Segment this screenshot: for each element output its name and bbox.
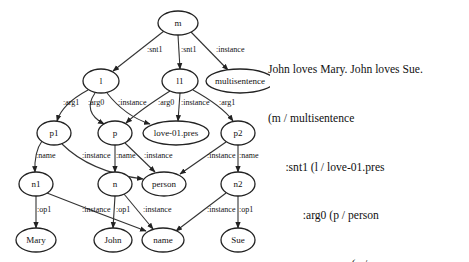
node-n2: n2 [221, 172, 255, 196]
edge-l1-p: :arg0 [126, 91, 174, 123]
edge-p2-person: :instance [180, 142, 236, 174]
edge-label: :instance [216, 45, 245, 54]
node-name: name [142, 228, 184, 252]
node-label: John [104, 235, 122, 245]
edge-label: :instance [207, 205, 236, 214]
node-label: n1 [32, 179, 41, 189]
node-l1: l1 [162, 69, 198, 93]
edge-p1-n1: :name [35, 141, 56, 172]
edge-label: :snt1 [181, 45, 197, 54]
edge-m-multisentence: :instance [191, 32, 245, 70]
node-love: love-01.pres [143, 121, 209, 145]
node-n: n [98, 172, 132, 196]
node-label: m [174, 18, 181, 28]
edge-label: :name [36, 151, 56, 160]
edge-l-p1: :arg1 [57, 90, 88, 121]
edge-label: :snt1 [147, 45, 163, 54]
edge-n-John: :op1 [113, 196, 130, 228]
edge-label: :instance [181, 98, 210, 107]
node-n1: n1 [19, 172, 53, 196]
node-p1: p1 [37, 121, 71, 145]
amr-graph: :snt1:snt1:instance:arg1:arg0:instance:a… [0, 0, 270, 262]
edge-label: :instance [144, 151, 173, 160]
edge-label: :instance [82, 151, 111, 160]
edge-n1-name: :instance [47, 193, 146, 231]
sentence-line: John loves Mary. John loves Sue. [268, 62, 423, 78]
node-label: n [113, 179, 118, 189]
edge-label: :name [239, 151, 259, 160]
node-m: m [158, 11, 198, 35]
edge-label: :arg1 [63, 98, 79, 107]
edge-n2-name: :instance [176, 193, 236, 231]
edge-arrow [178, 93, 180, 121]
node-multisentence: multisentence [206, 69, 270, 93]
node-p: p [98, 121, 132, 145]
node-label: Mary [26, 235, 46, 245]
edge-label: :arg0 [88, 98, 104, 107]
node-l: l [83, 69, 119, 93]
node-label: p2 [234, 128, 243, 138]
node-Mary: Mary [16, 228, 56, 252]
amr-line: (m / multisentence [268, 111, 423, 127]
node-label: l1 [176, 76, 183, 86]
node-John: John [94, 228, 132, 252]
edge-l-p: :arg0 [88, 93, 104, 124]
node-label: multisentence [215, 76, 265, 86]
node-label: n2 [234, 179, 243, 189]
edge-label: :instance [82, 205, 111, 214]
node-label: person [152, 179, 176, 189]
edge-label: :op1 [239, 205, 253, 214]
edge-n2-Sue: :op1 [238, 196, 253, 228]
node-label: love-01.pres [154, 128, 199, 138]
edge-arrow [178, 35, 180, 69]
edge-arrow [126, 91, 170, 123]
amr-line: :snt1 (l / love-01.pres [268, 160, 423, 176]
node-label: Sue [231, 235, 245, 245]
node-label: name [153, 235, 173, 245]
edge-label: :instance [207, 151, 236, 160]
edge-n1-Mary: :op1 [36, 196, 51, 228]
amr-text-block: John loves Mary. John loves Sue. (m / mu… [268, 30, 423, 262]
edge-m-l: :snt1 [113, 31, 164, 71]
amr-line: :arg0 (p / person [268, 208, 423, 224]
node-person: person [142, 172, 186, 196]
node-label: p [113, 128, 118, 138]
edge-label: :name [116, 151, 136, 160]
edge-m-l1: :snt1 [178, 35, 197, 69]
edge-arrow [113, 196, 115, 228]
amr-line: :name (n / name [268, 257, 423, 262]
node-label: p1 [50, 128, 59, 138]
node-p2: p2 [221, 121, 255, 145]
edge-label: :instance [118, 98, 147, 107]
edge-p-n: :name [115, 145, 136, 172]
edge-label: :op1 [37, 205, 51, 214]
edge-label: :instance [143, 205, 172, 214]
edge-label: :arg1 [219, 98, 235, 107]
edge-n-name: :instance [124, 194, 172, 229]
edge-label: :arg0 [158, 98, 174, 107]
edge-p2-n2: :name [238, 145, 259, 172]
node-Sue: Sue [221, 228, 255, 252]
edge-label: :op1 [116, 205, 130, 214]
